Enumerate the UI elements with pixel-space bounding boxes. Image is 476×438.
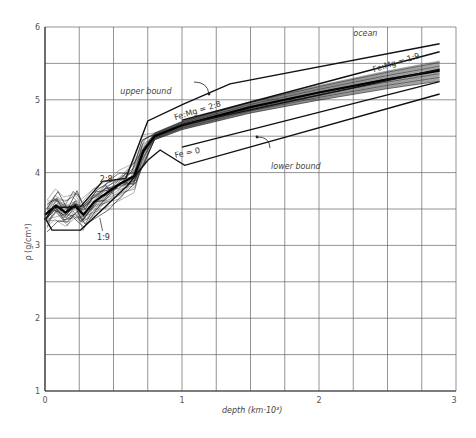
x-tick-label: 0 [42, 396, 47, 405]
ensemble-line [47, 80, 440, 231]
annotation-label: lower bound [271, 162, 322, 171]
ensemble-line [47, 78, 440, 227]
ensemble-line [47, 71, 440, 219]
annotations: oceanupper boundlower boundFe:Mg = 2:8Fe… [97, 29, 421, 242]
ratio-1-9-leader [100, 218, 103, 231]
ensemble-line [47, 76, 440, 226]
annotation-label: ocean [353, 29, 377, 38]
model-ensemble-lines [45, 61, 440, 232]
y-axis-label: ρ (g/cm³) [24, 223, 33, 260]
density-depth-chart: 0123123456 oceanupper boundlower boundFe… [0, 0, 476, 438]
annotation-label: 2:8 [100, 175, 113, 184]
y-tick-label: 3 [35, 241, 40, 250]
ensemble-line [47, 80, 440, 222]
upper-bound-arrow-head [208, 93, 211, 96]
annotation-label: 1:9 [97, 233, 110, 242]
ensemble-line [47, 71, 440, 220]
x-tick-label: 1 [179, 396, 184, 405]
ensemble-center-line [45, 71, 440, 215]
annotation-label: Fe = 0 [174, 146, 201, 160]
ensemble-line [47, 77, 440, 220]
lower-bound-arrow-head [256, 136, 259, 139]
y-tick-label: 4 [35, 169, 40, 178]
annotation-label: upper bound [120, 87, 172, 96]
x-tick-label: 3 [451, 396, 456, 405]
fe-mg-1-9-line [182, 69, 440, 124]
y-tick-label: 5 [35, 96, 40, 105]
x-axis-label: depth (km·10³) [222, 406, 282, 415]
ensemble-line [47, 70, 440, 218]
ensemble-line [47, 69, 440, 219]
y-tick-label: 6 [35, 23, 40, 32]
ensemble-line [47, 66, 440, 213]
y-tick-label: 1 [35, 387, 40, 396]
upper-bound-arrow [194, 82, 209, 94]
ensemble-line [47, 74, 440, 222]
x-tick-label: 2 [316, 396, 321, 405]
y-tick-label: 2 [35, 314, 40, 323]
